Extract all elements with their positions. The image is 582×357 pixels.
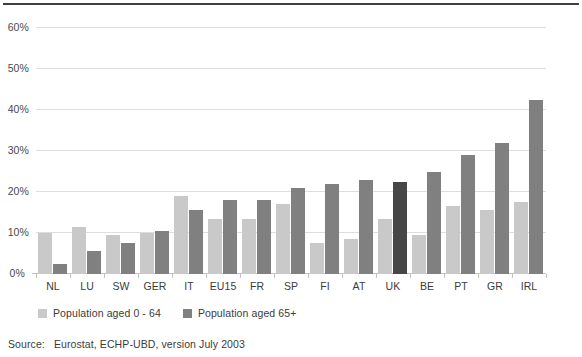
bar-pt-aged-0-64 (446, 206, 460, 274)
plot-area: 0%10%20%30%40%50%60% NLLUSWGERITEU15FRSP… (36, 28, 546, 274)
bar-uk-aged-0-64 (378, 219, 392, 274)
y-axis-tick-label: 10% (8, 226, 29, 238)
bar-fi-aged-65-plus (325, 184, 339, 274)
bar-eu15-aged-0-64 (208, 219, 222, 274)
bar-pt-aged-65-plus (461, 155, 475, 274)
bar-group-uk (376, 28, 410, 274)
bar-be-aged-0-64 (412, 235, 426, 274)
bar-group-fi (308, 28, 342, 274)
legend-label: Population aged 65+ (198, 307, 297, 319)
legend-swatch-icon (38, 309, 47, 318)
bar-group-eu15 (206, 28, 240, 274)
bar-group-at (342, 28, 376, 274)
x-axis-tick (444, 274, 445, 278)
bar-series-container: NLLUSWGERITEU15FRSPFIATUKBEPTGRIRL (36, 28, 546, 274)
source-note: Source:Eurostat, ECHP-UBD, version July … (8, 338, 245, 350)
bar-fi-aged-0-64 (310, 243, 324, 274)
bar-gr-aged-65-plus (495, 143, 509, 274)
x-axis-tick (478, 274, 479, 278)
legend-item-1: Population aged 65+ (183, 307, 297, 319)
x-axis-label-irl: IRL (499, 280, 559, 292)
x-axis-tick (206, 274, 207, 278)
bar-sp-aged-65-plus (291, 188, 305, 274)
bar-group-it (172, 28, 206, 274)
bar-nl-aged-65-plus (53, 264, 67, 274)
bar-irl-aged-0-64 (514, 202, 528, 274)
bar-gr-aged-0-64 (480, 210, 494, 274)
x-axis-tick (70, 274, 71, 278)
x-axis-tick (172, 274, 173, 278)
x-axis-tick (342, 274, 343, 278)
y-axis-tick-label: 50% (8, 62, 29, 74)
bar-be-aged-65-plus (427, 172, 441, 275)
bar-group-irl (512, 28, 546, 274)
x-axis-tick (546, 274, 547, 278)
x-axis-tick (512, 274, 513, 278)
x-axis-tick (240, 274, 241, 278)
bar-it-aged-65-plus (189, 210, 203, 274)
bar-group-gr (478, 28, 512, 274)
x-axis-tick (104, 274, 105, 278)
bar-group-sw (104, 28, 138, 274)
bar-sp-aged-0-64 (276, 204, 290, 274)
bar-sw-aged-65-plus (121, 243, 135, 274)
bar-group-nl (36, 28, 70, 274)
bar-fr-aged-65-plus (257, 200, 271, 274)
bar-uk-aged-65-plus (393, 182, 407, 274)
x-axis-tick (274, 274, 275, 278)
x-axis-tick (308, 274, 309, 278)
bar-group-fr (240, 28, 274, 274)
bar-nl-aged-0-64 (38, 233, 52, 274)
bar-group-be (410, 28, 444, 274)
bar-group-sp (274, 28, 308, 274)
y-axis-tick-label: 30% (8, 144, 29, 156)
bar-fr-aged-0-64 (242, 219, 256, 274)
x-axis-tick (410, 274, 411, 278)
x-axis-tick (138, 274, 139, 278)
legend-swatch-icon (183, 309, 192, 318)
source-label: Source: (8, 338, 45, 350)
y-axis-tick-label: 60% (8, 21, 29, 33)
bar-it-aged-0-64 (174, 196, 188, 274)
bar-group-pt (444, 28, 478, 274)
bar-lu-aged-65-plus (87, 251, 101, 274)
bar-sw-aged-0-64 (106, 235, 120, 274)
legend-label: Population aged 0 - 64 (53, 307, 161, 319)
bar-group-ger (138, 28, 172, 274)
bar-eu15-aged-65-plus (223, 200, 237, 274)
bar-at-aged-65-plus (359, 180, 373, 274)
y-axis-tick-label: 40% (8, 103, 29, 115)
bar-irl-aged-65-plus (529, 100, 543, 274)
bar-lu-aged-0-64 (72, 227, 86, 274)
x-axis-tick (376, 274, 377, 278)
y-axis-tick-label: 20% (8, 185, 29, 197)
top-rule-divider (3, 3, 579, 5)
legend-item-0: Population aged 0 - 64 (38, 307, 161, 319)
bar-ger-aged-0-64 (140, 233, 154, 274)
y-axis-tick-label: 0% (10, 267, 25, 279)
chart-legend: Population aged 0 - 64Population aged 65… (38, 307, 318, 319)
bar-at-aged-0-64 (344, 239, 358, 274)
bar-ger-aged-65-plus (155, 231, 169, 274)
chart-figure: 0%10%20%30%40%50%60% NLLUSWGERITEU15FRSP… (0, 0, 582, 357)
source-text: Eurostat, ECHP-UBD, version July 2003 (54, 338, 245, 350)
bar-group-lu (70, 28, 104, 274)
x-axis-tick (36, 274, 37, 278)
